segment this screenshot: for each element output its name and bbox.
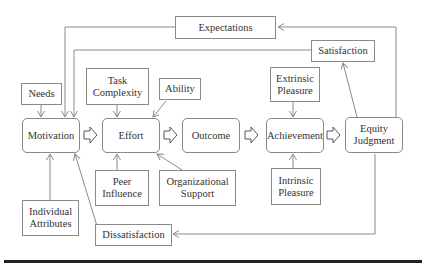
node-intrinsic-pleasure: Intrinsic Pleasure <box>271 168 321 205</box>
node-needs: Needs <box>21 83 62 105</box>
node-individual-attributes: Individual Attributes <box>22 200 79 236</box>
node-satisfaction: Satisfaction <box>311 40 375 62</box>
flow-arrow-icon <box>245 127 258 143</box>
node-expectations: Expectations <box>175 16 276 39</box>
node-peer-influence: Peer Influence <box>95 170 149 206</box>
node-motivation: Motivation <box>22 118 80 153</box>
node-task-complexity: Task Complexity <box>86 68 149 105</box>
node-outcome: Outcome <box>182 118 240 153</box>
edge-equity-satisfaction <box>343 63 357 117</box>
node-effort: Effort <box>102 118 160 153</box>
flow-arrow-icon <box>327 127 340 143</box>
flow-arrow-icon <box>164 127 177 143</box>
node-achievement: Achievement <box>266 118 324 153</box>
flow-arrow-icon <box>84 127 97 143</box>
node-extrinsic-pleasure: Extrinsic Pleasure <box>270 67 320 102</box>
edge-ability-effort <box>153 101 166 117</box>
edge-org-effort <box>157 154 182 170</box>
node-equity-judgment: Equity Judgment <box>345 117 403 153</box>
node-organizational-support: Organizational Support <box>159 170 236 206</box>
node-ability: Ability <box>159 78 201 100</box>
node-dissatisfaction: Dissatisfaction <box>95 224 172 246</box>
bottom-rule <box>4 260 422 263</box>
